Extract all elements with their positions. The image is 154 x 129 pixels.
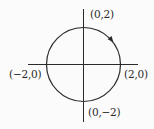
label-left-point: (−2,0) <box>9 69 42 80</box>
label-right-point: (2,0) <box>124 69 148 80</box>
label-bottom-point: (0,−2) <box>88 107 121 118</box>
circle-diagram: (0,2) (−2,0) (2,0) (0,−2) <box>0 0 154 129</box>
label-top-point: (0,2) <box>90 9 114 20</box>
diagram-canvas <box>0 0 154 129</box>
